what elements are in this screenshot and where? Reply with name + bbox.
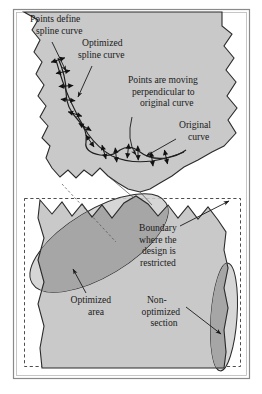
label-boundary-where-design-is-restricted: Boundary where the design is restricted bbox=[139, 222, 179, 268]
spline-optimization-figure: Points define spline curve Optimized spl… bbox=[0, 0, 262, 394]
diagram-canvas: Points define spline curve Optimized spl… bbox=[0, 0, 262, 394]
label-points-define-spline-curve: Points define spline curve bbox=[30, 13, 83, 36]
label-optimized-spline-curve: Optimized spline curve bbox=[78, 37, 125, 60]
